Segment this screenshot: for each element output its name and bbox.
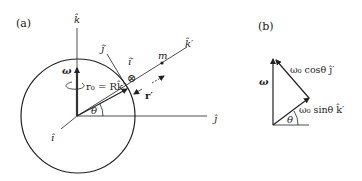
panel-a-label: (a) [16, 17, 31, 30]
i-hat-label: î [51, 132, 55, 143]
k-prime-label: k̂′ [185, 37, 194, 49]
r-prime-arrow-down [134, 89, 142, 94]
into-page-icon: ⊗ [127, 72, 136, 85]
theta-label-a: θ [91, 105, 97, 116]
omega-label: ω [62, 65, 72, 76]
k-hat-label: k̂ [74, 13, 80, 25]
i-prime-label: î′ [128, 56, 134, 67]
r-prime-arrow-up [152, 76, 164, 83]
panel-b-label: (b) [258, 20, 274, 33]
r-prime-label: r′ [145, 90, 153, 101]
theta-arc [100, 104, 103, 116]
j-prime-label: ĵ′ [99, 43, 107, 54]
panel-a: (a) k̂ ĵ î k̂′ ĵ′ î′ ⊗ m ω r₀ = Rk̂′ r′ … [16, 13, 218, 173]
j-hat-label: ĵ [212, 113, 218, 124]
theta-label-b: θ [287, 114, 293, 125]
mass-label: m [158, 50, 167, 61]
i-hat-axis [61, 116, 77, 129]
diagram-canvas: (a) k̂ ĵ î k̂′ ĵ′ î′ ⊗ m ω r₀ = Rk̂′ r′ … [0, 0, 362, 181]
r0-vector [77, 89, 127, 116]
theta-arc-b [294, 111, 298, 125]
omega-label-b: ω [259, 76, 269, 87]
r0-label: r₀ = Rk̂′ [86, 80, 126, 92]
mass-dot [160, 61, 163, 64]
sin-component-label: ω₀ sinθ k̂′ [299, 103, 344, 115]
cos-component-label: ω₀ cosθ ĵ′ [290, 64, 334, 75]
rotation-arrow-icon [66, 82, 84, 89]
panel-b: (b) ω ω₀ cosθ ĵ′ ω₀ sinθ k̂′ θ [258, 20, 344, 125]
